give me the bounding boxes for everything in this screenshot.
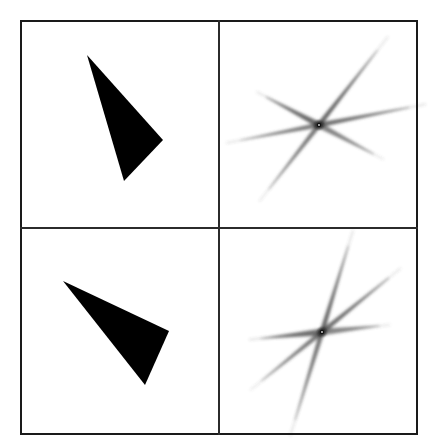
spectrum-dc-null — [321, 331, 323, 333]
spectrum-dc-null — [318, 124, 320, 126]
figure-container — [0, 0, 437, 448]
figure-canvas — [0, 0, 437, 448]
